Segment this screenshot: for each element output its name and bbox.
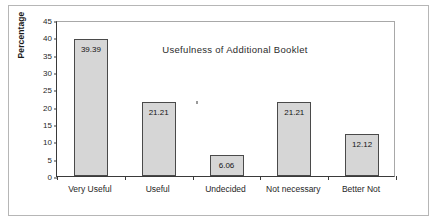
- x-axis-category-label: Very Useful: [56, 184, 124, 194]
- x-axis-tick-mark: [396, 176, 397, 180]
- bar-value-label: 21.21: [143, 109, 175, 117]
- y-axis-tick-mark: [54, 74, 57, 75]
- y-axis-tick-mark: [54, 126, 57, 127]
- x-axis-tick-mark: [328, 176, 329, 180]
- y-axis-tick-mark: [54, 160, 57, 161]
- y-axis-tick-mark: [54, 108, 57, 109]
- bar: 6.06: [210, 155, 244, 176]
- x-axis-tick-mark: [193, 176, 194, 180]
- x-axis-category-label: Better Not: [327, 184, 395, 194]
- bar: 12.12: [345, 134, 379, 176]
- bar-chart-figure: Percentage 05101520253035404539.3921.216…: [0, 0, 437, 224]
- y-axis-tick-mark: [54, 39, 57, 40]
- bar-value-label: 21.21: [278, 109, 310, 117]
- x-axis-tick-mark: [57, 176, 58, 180]
- x-axis-category-label: Useful: [124, 184, 192, 194]
- x-axis-tick-mark: [125, 176, 126, 180]
- bar: 21.21: [277, 102, 311, 176]
- y-axis-title: Percentage: [14, 0, 28, 80]
- y-axis-tick-mark: [54, 22, 57, 23]
- x-axis-category-label: Not necessary: [259, 184, 327, 194]
- bar: 21.21: [142, 102, 176, 176]
- x-axis-category-label: Undecided: [192, 184, 260, 194]
- bar: 39.39: [74, 39, 108, 176]
- bar-value-label: 39.39: [75, 46, 107, 54]
- chart-title: Usefulness of Additional Booklet: [130, 44, 340, 55]
- bar-value-label: 12.12: [346, 141, 378, 149]
- y-axis-tick-mark: [54, 91, 57, 92]
- y-axis-tick-mark: [54, 143, 57, 144]
- scan-artifact-speck: [196, 101, 198, 104]
- y-axis-tick-mark: [54, 56, 57, 57]
- bar-value-label: 6.06: [211, 162, 243, 170]
- x-axis-tick-mark: [260, 176, 261, 180]
